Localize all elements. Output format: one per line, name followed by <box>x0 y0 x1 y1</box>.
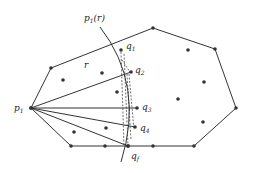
point-q4 <box>133 125 137 129</box>
point-q1 <box>119 48 123 52</box>
convex-hull-diagram: p1(r) r p1 q1 q2 q3 q4 qf <box>0 0 254 173</box>
label-q3: q3 <box>142 102 152 113</box>
point-p1 <box>29 106 33 110</box>
label-q4: q4 <box>140 123 150 134</box>
point-qf <box>126 144 130 148</box>
fan-lines <box>31 72 137 146</box>
label-p1: p1 <box>14 103 24 114</box>
point-q3 <box>135 106 139 110</box>
label-q2: q2 <box>135 65 145 76</box>
label-qf: qf <box>131 151 141 163</box>
label-q1: q1 <box>126 41 136 52</box>
label-r: r <box>84 60 89 70</box>
point-q2 <box>129 70 133 74</box>
label-p1-r: p1(r) <box>84 13 105 24</box>
